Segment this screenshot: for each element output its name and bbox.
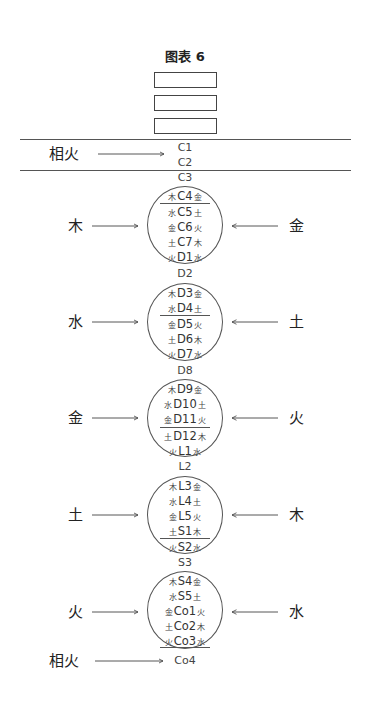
group-4-right-element: 木 (281, 506, 311, 524)
group-1-right-element: 金 (281, 217, 311, 235)
row-code: D5 (177, 317, 193, 331)
row-code: Co2 (174, 619, 196, 633)
row-right-element: 木 (193, 528, 201, 537)
row-right-element: 火 (198, 416, 206, 425)
row-code: S1 (178, 524, 193, 538)
row-left-element: 木 (169, 578, 177, 587)
row-right-element: 水 (193, 448, 201, 457)
row-right-element: 金 (194, 290, 202, 299)
group-5-row-2: 水S5土 (147, 590, 223, 604)
group-1-row-5: 火D1水 (147, 251, 223, 265)
row-left-element: 金 (168, 321, 176, 330)
row-left-element: 火 (168, 254, 176, 263)
node-co4: Co4 (155, 655, 215, 667)
row-right-element: 土 (193, 593, 201, 602)
row-left-element: 土 (164, 433, 172, 442)
group-2-row-1: 木D3金 (147, 287, 223, 301)
row-left-element: 土 (169, 528, 177, 537)
row-left-element: 水 (169, 498, 177, 507)
row-code: D9 (177, 382, 193, 396)
group-3-right-element: 火 (281, 409, 311, 427)
row-code: S4 (178, 574, 193, 588)
group-2-right-element: 土 (281, 313, 311, 331)
group-4-row-2: 水L4土 (147, 495, 223, 509)
row-left-element: 火 (165, 638, 173, 647)
group-5-row-1: 木S4金 (147, 575, 223, 589)
row-left-element: 金 (165, 608, 173, 617)
row-left-element: 火 (168, 351, 176, 360)
row-right-element: 金 (193, 578, 201, 587)
group-3-row-4: 土D12木 (147, 430, 223, 444)
row-right-element: 水 (193, 544, 201, 553)
row-right-element: 木 (197, 623, 205, 632)
row-code: D1 (177, 250, 193, 264)
row-right-element: 金 (194, 193, 202, 202)
group-4-row-4: 土S1木 (147, 525, 223, 539)
row-right-element: 木 (194, 239, 202, 248)
group-1-row-1: 木C4金 (147, 190, 223, 204)
row-code: S2 (178, 540, 193, 554)
row-code: L1 (178, 444, 192, 458)
row-left-element: 木 (169, 483, 177, 492)
row-code: Co3 (174, 634, 196, 648)
group-4-row-1: 木L3金 (147, 480, 223, 494)
group-4-row-3: 金L5火 (147, 510, 223, 524)
group-5-left-element: 火 (60, 603, 90, 621)
group-5-right-element: 水 (281, 603, 311, 621)
row-code: D3 (177, 286, 193, 300)
group-3-divider (160, 427, 210, 428)
row-left-element: 木 (168, 290, 176, 299)
group-2-row-3: 金D5火 (147, 318, 223, 332)
row-right-element: 金 (194, 386, 202, 395)
group-3-row-1: 木D9金 (147, 383, 223, 397)
row-left-element: 水 (168, 305, 176, 314)
row-right-element: 水 (197, 638, 205, 647)
row-right-element: 火 (197, 608, 205, 617)
row-code: C6 (177, 220, 192, 234)
xianghuo-label-bottom: 相火 (46, 652, 82, 670)
row-right-element: 水 (194, 351, 202, 360)
node-above-group-4: L2 (155, 461, 215, 473)
node-above-group-5: S3 (155, 557, 215, 569)
row-right-element: 火 (194, 224, 202, 233)
row-code: C5 (177, 205, 192, 219)
group-3-row-2: 水D10土 (147, 398, 223, 412)
row-code: D7 (177, 347, 193, 361)
row-code: D10 (173, 397, 197, 411)
group-2-row-2: 水D4土 (147, 302, 223, 316)
row-code: C4 (177, 189, 192, 203)
row-right-element: 土 (193, 498, 201, 507)
row-right-element: 火 (194, 321, 202, 330)
row-right-element: 土 (194, 305, 202, 314)
row-left-element: 金 (169, 513, 177, 522)
group-1-row-3: 金C6火 (147, 221, 223, 235)
group-3-row-5: 火L1水 (147, 445, 223, 459)
group-4-row-5: 火S2水 (147, 541, 223, 555)
row-left-element: 金 (168, 224, 176, 233)
row-code: L4 (178, 494, 192, 508)
row-left-element: 土 (165, 623, 173, 632)
node-above-group-1: C3 (155, 172, 215, 184)
row-left-element: 土 (168, 239, 176, 248)
group-1-row-4: 土C7木 (147, 236, 223, 250)
row-right-element: 水 (194, 254, 202, 263)
node-above-group-2: D2 (155, 268, 215, 280)
row-right-element: 土 (194, 209, 202, 218)
row-code: D11 (173, 412, 197, 426)
group-3-left-element: 金 (60, 409, 90, 427)
row-code: D12 (173, 429, 197, 443)
row-left-element: 金 (164, 416, 172, 425)
row-right-element: 金 (193, 483, 201, 492)
row-right-element: 火 (193, 513, 201, 522)
row-right-element: 木 (194, 336, 202, 345)
group-2-left-element: 水 (60, 313, 90, 331)
group-2-row-5: 火D7水 (147, 348, 223, 362)
row-code: D6 (177, 332, 193, 346)
row-code: Co1 (174, 604, 196, 618)
row-left-element: 土 (168, 336, 176, 345)
group-3-row-3: 金D11火 (147, 413, 223, 427)
group-5-row-5: 火Co3水 (147, 635, 223, 649)
row-code: C7 (177, 235, 192, 249)
node-above-group-3: D8 (155, 365, 215, 377)
row-left-element: 水 (168, 209, 176, 218)
